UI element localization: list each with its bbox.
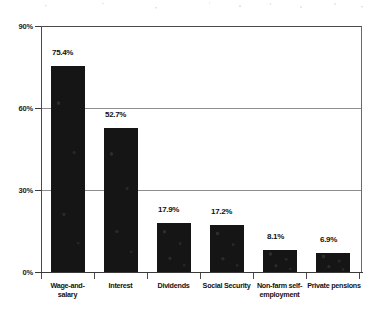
category-label-wage-and-salary: Wage-and-salary xyxy=(41,281,94,299)
scan-noise-artifact xyxy=(0,0,381,14)
x-axis-categories: Wage-and-salary Interest Dividends Socia… xyxy=(41,273,362,321)
category-label-social-security: Social Security xyxy=(200,281,253,290)
category-label-line-1: Non-farm self- xyxy=(257,281,302,290)
y-tick-label-0: 0% xyxy=(23,268,33,277)
bar-value-label: 8.1% xyxy=(267,232,284,241)
category-separator xyxy=(94,273,95,279)
bar-chart-figure: 90% 60% 30% 0% 75.4% 52.7% 17.9% 17.2% xyxy=(0,0,381,323)
bar-value-label: 6.9% xyxy=(320,235,337,244)
category-separator xyxy=(306,273,307,279)
category-label-dividends: Dividends xyxy=(147,281,200,290)
bar-value-label: 52.7% xyxy=(105,110,126,119)
category-separator xyxy=(253,273,254,279)
y-tick-label-90: 90% xyxy=(19,22,33,31)
bar xyxy=(263,250,297,272)
y-axis: 90% 60% 30% 0% xyxy=(0,0,33,323)
bar-value-label: 75.4% xyxy=(52,48,73,57)
bar xyxy=(51,66,85,272)
category-label-interest: Interest xyxy=(94,281,147,290)
category-label-private-pensions: Private pensions xyxy=(306,281,362,290)
bar-group-social-security: 17.2% xyxy=(210,26,244,272)
bar-group-private-pensions: 6.9% xyxy=(316,26,350,272)
category-separator xyxy=(200,273,201,279)
bar xyxy=(210,225,244,272)
bar-group-dividends: 17.9% xyxy=(157,26,191,272)
bar xyxy=(104,128,138,272)
bar xyxy=(316,253,350,272)
category-separator xyxy=(41,273,42,279)
bar-group-non-farm-self-employment: 8.1% xyxy=(263,26,297,272)
category-label-non-farm-self-employment: Non-farm self- employment xyxy=(253,281,306,299)
y-tick-label-30: 30% xyxy=(19,186,33,195)
category-separator xyxy=(147,273,148,279)
bar xyxy=(157,223,191,272)
bar-group-wage-and-salary: 75.4% xyxy=(51,26,85,272)
bar-group-interest: 52.7% xyxy=(104,26,138,272)
bar-value-label: 17.9% xyxy=(158,205,179,214)
bar-value-label: 17.2% xyxy=(211,207,232,216)
y-tick-label-60: 60% xyxy=(19,104,33,113)
bars-layer: 75.4% 52.7% 17.9% 17.2% 8.1% 6.9% xyxy=(41,26,362,272)
category-separator xyxy=(359,273,360,279)
category-label-line-2: employment xyxy=(260,290,300,299)
